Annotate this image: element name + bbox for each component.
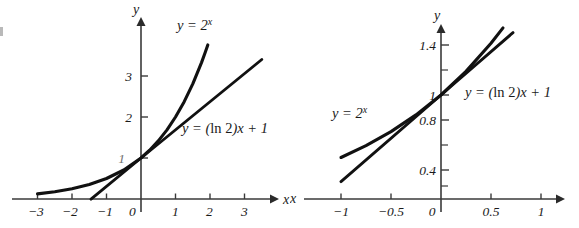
exponential-curve-label: y = 2x: [330, 104, 368, 121]
x-tick-label-1: 1: [538, 204, 545, 219]
x-axis-arrowhead: [556, 195, 565, 204]
x-tick-label-0: 0: [429, 204, 436, 219]
tangent-line-label: y = (ln 2)x + 1: [180, 120, 268, 137]
x-tick-label-1: 1: [172, 204, 179, 219]
x-tick-label-minus-2: −2: [62, 204, 78, 219]
y-tick-label-2: 2: [125, 110, 132, 125]
y-axis-label: y: [131, 2, 140, 17]
figure-root: x y −3 −2 −1 0 1 2 3: [0, 0, 579, 228]
zoomed-out-panel: x y −3 −2 −1 0 1 2 3: [0, 0, 290, 228]
x-tick-label-minus-0-5: −0.5: [378, 204, 404, 219]
x-axis-label: x: [290, 191, 297, 206]
tangent-line-label: y = (ln 2)x + 1: [463, 84, 551, 101]
exponential-curve-label: y = 2x: [175, 16, 213, 33]
zoomed-in-panel: x y −1 −0.5 0 0.5 1: [290, 0, 579, 228]
x-tick-label-minus-3: −3: [28, 204, 44, 219]
y-tick-label-0-8: 0.8: [419, 113, 436, 128]
y-axis-arrowhead: [137, 17, 146, 26]
x-tick-label-minus-1: −1: [97, 204, 113, 219]
x-tick-label-3: 3: [240, 204, 248, 219]
x-axis-arrowhead: [270, 195, 279, 204]
x-tick-label-0: 0: [129, 204, 136, 219]
x-tick-label-0-5: 0.5: [483, 204, 500, 219]
y-tick-marks: [441, 45, 449, 170]
y-tick-label-3: 3: [124, 69, 132, 84]
y-tick-marks: [141, 76, 148, 158]
y-axis-label: y: [432, 8, 441, 23]
y-axis-arrowhead: [437, 24, 446, 33]
x-axis-label: x: [282, 192, 290, 207]
edge-speck: [0, 27, 3, 36]
y-tick-label-1-4: 1.4: [419, 38, 436, 53]
x-tick-label-2: 2: [206, 204, 213, 219]
y-tick-label-1: 1: [118, 151, 125, 166]
x-tick-label-minus-1: −1: [333, 204, 349, 219]
y-tick-label-0-4: 0.4: [419, 163, 436, 178]
